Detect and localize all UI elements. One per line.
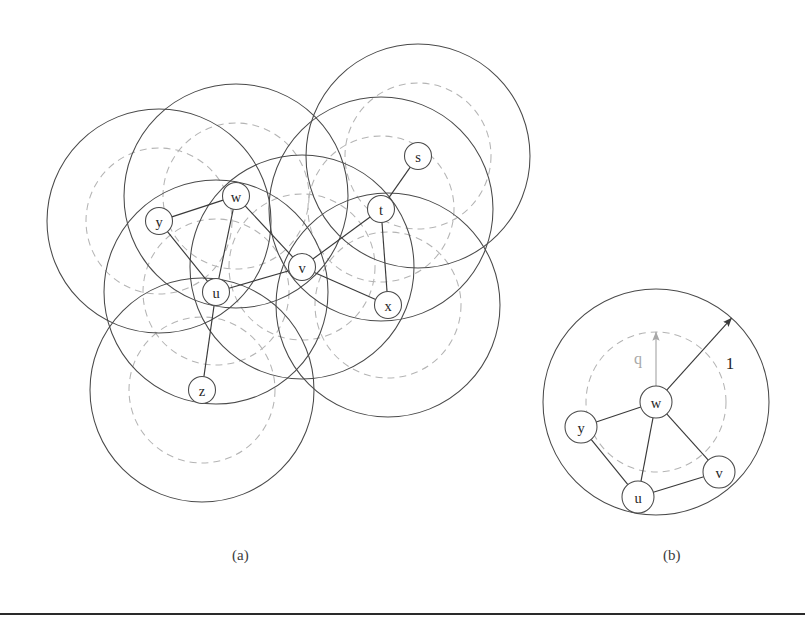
edge-t-x xyxy=(382,222,387,291)
panel-b-edge-group xyxy=(591,407,708,492)
node-w: w xyxy=(223,183,250,210)
panel-b-radius-arrow-group: q1 xyxy=(634,318,734,390)
panel-b-node-u-label: u xyxy=(634,490,641,506)
panel-b-node-y-label: y xyxy=(577,420,585,436)
node-x-label: x xyxy=(384,298,392,314)
figure-canvas: stwyvuxz q1 wyuv xyxy=(0,0,805,619)
node-z: z xyxy=(189,377,216,404)
node-y-label: y xyxy=(155,214,163,230)
edge-u-z xyxy=(204,305,214,376)
panel-b-caption: (b) xyxy=(663,547,681,564)
panel-b-edge-w-y xyxy=(596,407,641,422)
node-t-label: t xyxy=(379,202,383,218)
figure-root: stwyvuxz q1 wyuv (a) (b) xyxy=(0,0,805,619)
node-w-label: w xyxy=(231,189,242,205)
node-v: v xyxy=(289,254,316,281)
node-v-label: v xyxy=(298,260,306,276)
node-y: y xyxy=(146,208,173,235)
transmission-radius-label: 1 xyxy=(726,354,735,373)
edge-y-w xyxy=(172,200,223,217)
panel-b-edge-w-v xyxy=(667,414,709,460)
edge-u-v xyxy=(229,271,289,288)
panel-a-caption: (a) xyxy=(232,547,249,564)
node-u: u xyxy=(203,279,230,306)
node-t: t xyxy=(368,196,395,223)
edge-v-x xyxy=(314,272,375,299)
panel-a-transmission-disk-group xyxy=(47,44,530,502)
panel-b-edge-u-v xyxy=(653,477,703,493)
panel-b-node-w-label: w xyxy=(651,395,662,411)
panel-b-node-y: y xyxy=(565,411,597,443)
node-x: x xyxy=(375,292,402,319)
inner-radius-label: q xyxy=(634,350,642,368)
panel-b-node-v: v xyxy=(703,456,735,488)
node-s-label: s xyxy=(415,149,421,165)
panel-b-node-v-label: v xyxy=(715,465,723,481)
node-s: s xyxy=(405,143,432,170)
edge-y-u xyxy=(167,232,207,282)
node-u-label: u xyxy=(212,285,219,301)
panel-b-edge-y-u xyxy=(591,439,628,484)
bottom-horizontal-rule xyxy=(0,613,805,615)
node-z-label: z xyxy=(199,383,206,399)
panel-b-node-w: w xyxy=(640,386,672,418)
transmission-radius-arrow xyxy=(667,318,732,390)
panel-b-node-u: u xyxy=(622,481,654,513)
